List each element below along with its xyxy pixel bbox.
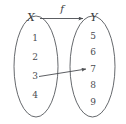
domain-element-3: 3 <box>32 71 38 81</box>
mapping-arrow-3-to-7 <box>39 69 86 77</box>
domain-element-2: 2 <box>32 52 38 62</box>
domain-element-1: 1 <box>32 33 38 43</box>
domain-element-4: 4 <box>32 90 38 100</box>
domain-set-label: X <box>26 11 36 24</box>
function-mapping-diagram: X Y f 1 2 3 4 5 6 7 8 9 <box>0 0 126 124</box>
codomain-element-6: 6 <box>90 47 96 57</box>
function-label-f: f <box>59 3 66 14</box>
domain-set-ellipse <box>14 16 58 117</box>
codomain-element-8: 8 <box>90 80 96 90</box>
codomain-element-5: 5 <box>90 31 96 41</box>
codomain-element-9: 9 <box>90 97 96 107</box>
diagram-canvas: X Y f 1 2 3 4 5 6 7 8 9 <box>0 0 126 124</box>
codomain-element-7: 7 <box>90 64 96 74</box>
